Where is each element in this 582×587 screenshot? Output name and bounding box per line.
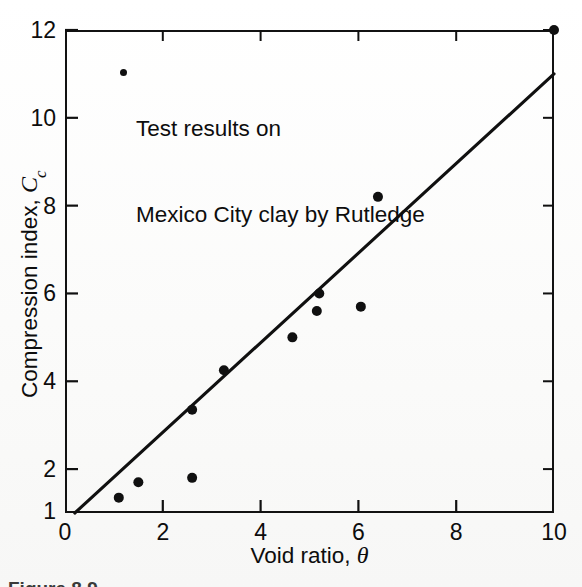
legend-text: Test results on Mexico City clay by Rutl… xyxy=(136,58,425,287)
y-tick-label: 12 xyxy=(30,17,56,44)
y-axis-title-text: Compression index, xyxy=(17,193,42,398)
legend-line-1: Test results on xyxy=(136,115,425,144)
y-tick-label: 1 xyxy=(43,498,56,525)
x-axis-title: Void ratio, θ xyxy=(65,542,554,569)
legend-marker-icon xyxy=(120,69,127,76)
y-axis-title: Compression index, Cc xyxy=(16,134,48,434)
y-tick-label: 2 xyxy=(43,456,56,483)
x-axis-title-symbol: θ xyxy=(357,542,369,568)
y-axis-title-subscript: c xyxy=(31,170,50,178)
y-tick-label: 10 xyxy=(30,104,56,131)
legend-line-2: Mexico City clay by Rutledge xyxy=(136,201,425,230)
figure-caption-partial: Figure 8.9 xyxy=(8,578,248,587)
y-axis-title-symbol: C xyxy=(16,177,42,193)
x-axis-title-text: Void ratio, xyxy=(250,543,356,568)
figure-root: 1246810120246810 Compression index, Cc V… xyxy=(0,0,582,587)
legend: Test results on Mexico City clay by Rutl… xyxy=(120,58,425,287)
